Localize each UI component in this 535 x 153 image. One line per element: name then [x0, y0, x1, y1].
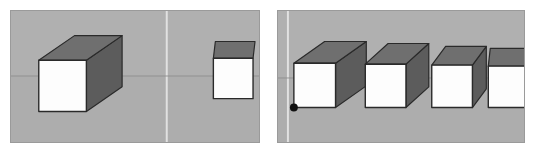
cube-face-front [213, 58, 253, 98]
cube-far-right[interactable] [213, 42, 255, 99]
vertex-marker-dot[interactable] [290, 104, 298, 112]
cube-face-front [488, 66, 524, 107]
cube-face-top [488, 48, 524, 66]
cube-face-front [432, 65, 473, 107]
left-viewport[interactable] [10, 10, 260, 143]
cube-row-item-4[interactable] [488, 48, 524, 107]
cube-face-front [39, 60, 87, 111]
cube-face-top [213, 42, 255, 59]
right-viewport-canvas[interactable] [278, 11, 524, 142]
left-viewport-canvas[interactable] [11, 11, 259, 142]
figure-root [0, 0, 535, 153]
cube-face-front [365, 64, 406, 107]
cube-face-front [294, 63, 336, 107]
cube-row-item-3[interactable] [432, 46, 487, 107]
right-viewport[interactable] [277, 10, 525, 143]
